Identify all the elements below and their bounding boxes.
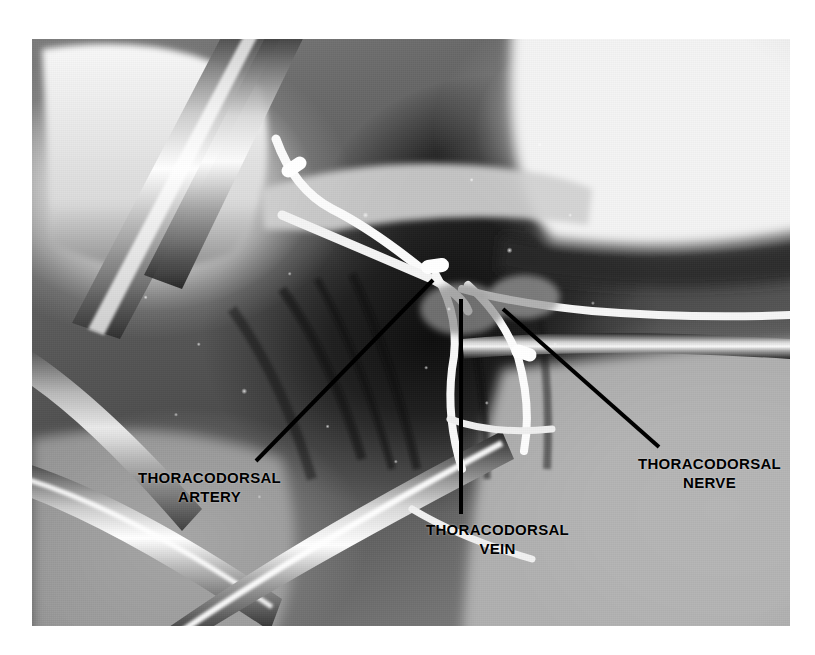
- label-vein-line1: THORACODORSAL: [426, 520, 569, 539]
- label-thoracodorsal-artery: THORACODORSAL ARTERY: [138, 468, 281, 506]
- label-nerve-line2: NERVE: [638, 473, 781, 492]
- surgical-photograph: [32, 39, 790, 626]
- label-nerve-line1: THORACODORSAL: [638, 454, 781, 473]
- label-artery-line1: THORACODORSAL: [138, 468, 281, 487]
- photo-vignette: [32, 39, 790, 626]
- label-vein-line2: VEIN: [426, 539, 569, 558]
- label-thoracodorsal-vein: THORACODORSAL VEIN: [426, 520, 569, 558]
- label-thoracodorsal-nerve: THORACODORSAL NERVE: [638, 454, 781, 492]
- figure-root: THORACODORSAL ARTERY THORACODORSAL VEIN …: [0, 0, 815, 655]
- label-artery-line2: ARTERY: [138, 487, 281, 506]
